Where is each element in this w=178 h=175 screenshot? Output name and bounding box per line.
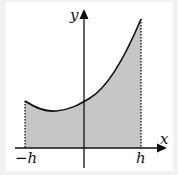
shaded-region xyxy=(25,19,141,148)
x-axis-label: x xyxy=(160,130,169,148)
y-axis-label: y xyxy=(69,6,79,24)
y-axis-arrow-icon xyxy=(80,9,89,19)
area-under-curve-diagram: y x −h h xyxy=(0,0,178,175)
tick-label-h: h xyxy=(136,149,146,167)
tick-label-neg-h: −h xyxy=(15,149,37,167)
